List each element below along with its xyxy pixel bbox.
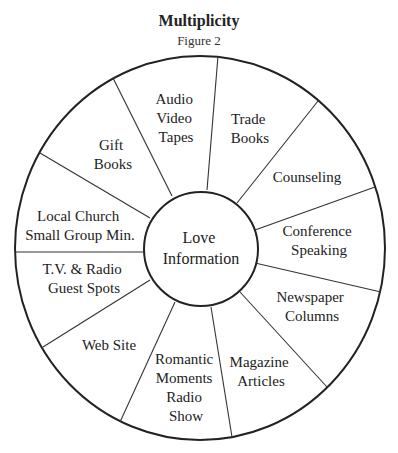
multiplicity-wheel: Love Information Audio Video Tapes Trade… — [0, 0, 398, 453]
spoke-audio-trade — [207, 56, 218, 190]
segment-conference-speaking: Conference Speaking — [283, 223, 356, 258]
segment-audio-video-tapes: Audio Video Tapes — [155, 91, 196, 145]
spoke-conference-newspaper — [255, 263, 381, 292]
inner-circle — [144, 192, 258, 306]
segment-magazine-articles: Magazine Articles — [230, 354, 293, 389]
segment-gift-books: Gift Books — [94, 137, 133, 172]
segment-newspaper-columns: Newspaper Columns — [276, 289, 347, 324]
segment-local-church-small-group: Local Church Small Group Min. — [25, 208, 135, 243]
segment-web-site: Web Site — [82, 337, 137, 353]
segment-counseling: Counseling — [273, 169, 342, 185]
segment-tv-radio-guest-spots: T.V. & Radio Guest Spots — [42, 261, 125, 296]
segment-trade-books: Trade Books — [231, 111, 270, 146]
segment-romantic-moments-radio-show: Romantic Moments Radio Show — [155, 351, 217, 424]
